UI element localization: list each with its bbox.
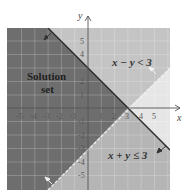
inequality-label-x-minus-y: x − y < 3	[111, 56, 152, 68]
svg-text:2: 2	[80, 77, 84, 86]
svg-text:-1: -1	[70, 112, 77, 121]
inequality-graph: y x -5 -4 -3 -2 -1 1 2 3 4 5 5 4 2 1 -1 …	[0, 0, 186, 194]
svg-text:4: 4	[139, 112, 143, 121]
svg-text:5: 5	[152, 112, 156, 121]
svg-text:5: 5	[80, 37, 84, 46]
svg-text:-5: -5	[78, 171, 85, 180]
svg-text:-5: -5	[16, 112, 23, 121]
svg-text:2: 2	[112, 112, 116, 121]
inequality-label-x-plus-y: x + y ≤ 3	[107, 149, 148, 161]
solution-set-label-line2: set	[41, 83, 54, 95]
svg-text:-4: -4	[30, 112, 37, 121]
svg-text:-3: -3	[78, 144, 85, 153]
svg-text:-2: -2	[56, 112, 63, 121]
svg-text:-1: -1	[78, 117, 85, 126]
solution-set-label: Solution	[27, 70, 66, 82]
svg-text:3: 3	[125, 112, 129, 121]
svg-text:-2: -2	[78, 131, 85, 140]
svg-text:1: 1	[80, 91, 84, 100]
x-axis-label: x	[176, 112, 182, 123]
y-axis-label: y	[77, 10, 83, 21]
svg-text:-3: -3	[43, 112, 50, 121]
svg-text:1: 1	[99, 112, 103, 121]
svg-text:4: 4	[80, 50, 84, 59]
svg-text:-4: -4	[78, 158, 85, 167]
